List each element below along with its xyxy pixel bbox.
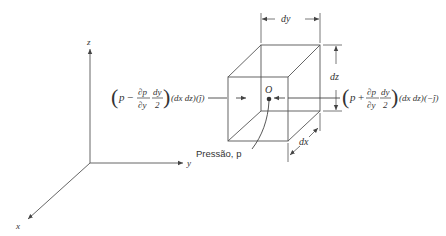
right-close-paren: )	[391, 84, 398, 109]
dz-label: dz	[330, 71, 339, 82]
left-force-expression: ( p − ∂p ∂y dy 2 ) (dx dz) (ĵ)	[111, 84, 205, 110]
dy-label: dy	[281, 13, 291, 24]
dx-label: dx	[299, 136, 309, 147]
left-frac2-num: dy	[153, 87, 162, 97]
right-sign: +	[358, 91, 364, 103]
right-frac1-den: ∂y	[367, 100, 375, 110]
left-area: (dx dz)	[171, 93, 196, 103]
right-open-paren: (	[342, 84, 349, 109]
left-frac1-num: ∂p	[138, 87, 147, 97]
x-axis	[28, 163, 90, 219]
pressure-leader-line	[252, 101, 269, 149]
coordinate-axes: z y x	[15, 37, 191, 231]
center-label: O	[265, 84, 272, 95]
left-open-paren: (	[111, 84, 118, 109]
x-axis-label: x	[15, 221, 20, 231]
left-direction: (ĵ)	[196, 93, 205, 103]
left-sign: −	[127, 91, 133, 103]
z-axis-label: z	[86, 37, 91, 47]
center-point: O	[265, 84, 272, 101]
right-area: (dx dz)	[399, 93, 424, 103]
left-frac1-den: ∂y	[138, 100, 146, 110]
left-frac2-den: 2	[155, 100, 160, 110]
fluid-element-cube	[228, 45, 320, 141]
right-force-expression: ( p + ∂p ∂y dy 2 ) (dx dz) (−ĵ)	[342, 84, 439, 110]
left-p: p	[118, 91, 125, 103]
right-frac2-den: 2	[383, 100, 388, 110]
right-frac2-num: dy	[381, 87, 390, 97]
y-axis-label: y	[186, 158, 191, 168]
right-p: p	[349, 91, 356, 103]
pressure-element-diagram: z y x O Pressão, p dy dz	[0, 0, 446, 236]
right-frac1-num: ∂p	[367, 87, 376, 97]
pressure-label: Pressão, p	[196, 148, 241, 159]
dy-dimension	[261, 13, 320, 43]
left-close-paren: )	[163, 84, 170, 109]
right-direction: (−ĵ)	[424, 93, 439, 103]
